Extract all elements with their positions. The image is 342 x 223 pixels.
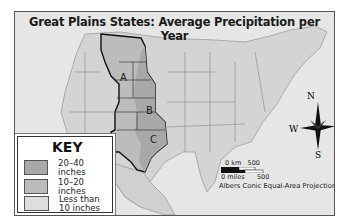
compass-north: N: [307, 91, 315, 101]
region-label-b: B: [146, 105, 153, 116]
compass-rose: N S E W: [298, 96, 335, 160]
key-swatch-under-10: [24, 196, 49, 211]
compass-rose-icon: [298, 96, 335, 156]
map-title: Great Plains States: Average Precipitati…: [15, 15, 334, 43]
compass-south: S: [315, 150, 321, 160]
scale-km-label: 0 km: [225, 159, 241, 167]
region-label-a: A: [120, 72, 127, 83]
region-label-c: C: [150, 134, 157, 145]
key-label-under-10: Less than 10 inches: [59, 195, 100, 212]
scale-km-value: 500: [248, 159, 260, 167]
key-swatch-10-20: [24, 179, 48, 194]
map-key: KEY 20–40 inches 10–20 inches Less than …: [17, 136, 113, 213]
key-swatch-20-40: [24, 160, 48, 175]
key-item-10-20: 10–20 inches: [24, 178, 112, 195]
scale-bar: 0 km 500 0 miles 500: [225, 159, 269, 181]
projection-label: Albers Conic Equal-Area Projection: [219, 182, 335, 190]
map-frame: Great Plains States: Average Precipitati…: [14, 11, 335, 216]
key-label-10-20: 10–20 inches: [58, 178, 112, 195]
key-item-under-10: Less than 10 inches: [24, 195, 100, 212]
scale-miles-label: 0 miles: [221, 173, 245, 181]
key-item-20-40: 20–40 inches: [24, 159, 112, 176]
compass-west: W: [289, 124, 298, 134]
key-label-20-40: 20–40 inches: [58, 159, 112, 176]
key-title: KEY: [52, 139, 83, 155]
scale-miles-value: 500: [257, 173, 269, 181]
key-label-under-10-line2: 10 inches: [59, 203, 100, 213]
